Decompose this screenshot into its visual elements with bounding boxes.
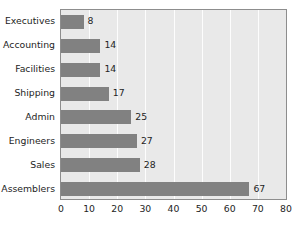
x-axis-tick-label: 70 [252,203,264,215]
bar [61,158,140,172]
x-axis-tick-label: 50 [196,203,208,215]
bar [61,63,100,77]
gridline [230,10,231,199]
gridline [145,10,146,199]
x-axis-tick-label: 20 [111,203,123,215]
bar [61,39,100,53]
bar [61,134,137,148]
x-axis: 01020304050607080 [60,203,287,217]
category-label: Accounting [3,39,55,50]
bar [61,110,131,124]
category-label: Assemblers [1,183,55,194]
x-axis-tick-label: 80 [280,203,292,215]
gridline [174,10,175,199]
bar [61,87,109,101]
chart-title-cropped [0,0,297,3]
category-label: Facilities [15,63,55,74]
x-axis-tick-label: 0 [58,203,64,215]
x-axis-tick-label: 40 [168,203,180,215]
plot-area [60,9,287,200]
category-label: Sales [30,159,55,170]
x-axis-tick-label: 60 [224,203,236,215]
bar [61,15,84,29]
bar [61,182,249,196]
gridline [258,10,259,199]
x-axis-tick-label: 10 [83,203,95,215]
category-label: Executives [5,15,55,26]
x-axis-tick-label: 30 [139,203,151,215]
gridline [202,10,203,199]
category-label: Admin [25,111,55,122]
category-label: Shipping [14,87,55,98]
category-label: Engineers [9,135,55,146]
category-axis: ExecutivesAccountingFacilitiesShippingAd… [0,9,59,200]
gridline [286,10,287,199]
bar-chart: ExecutivesAccountingFacilitiesShippingAd… [0,0,297,228]
